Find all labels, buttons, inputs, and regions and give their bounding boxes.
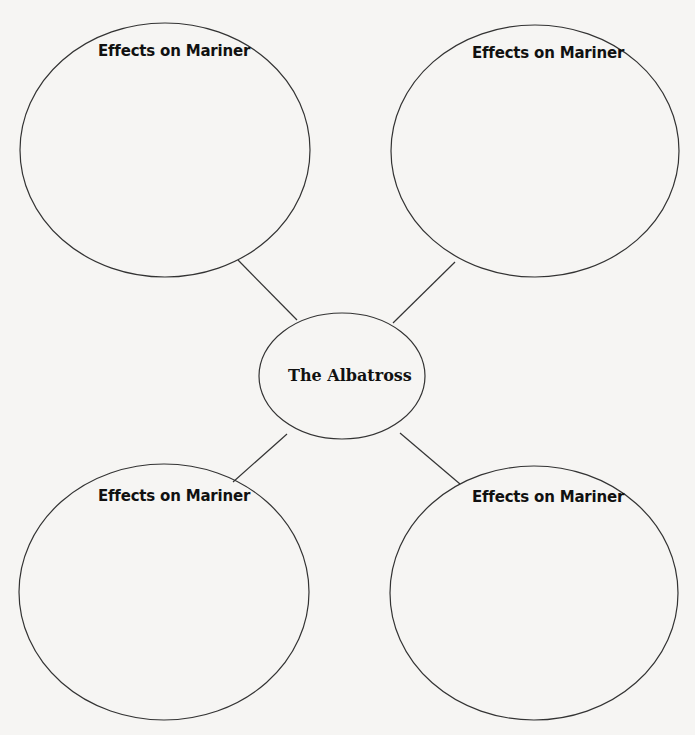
connector-bottom-left (233, 434, 287, 482)
connector-top-left (238, 260, 297, 320)
node-label-bottom-left: Effects on Mariner (98, 487, 250, 505)
node-label-bottom-right: Effects on Mariner (472, 488, 624, 506)
node-label-top-right: Effects on Mariner (472, 44, 624, 62)
node-label-top-left: Effects on Mariner (98, 42, 250, 60)
center-label: The Albatross (288, 366, 412, 385)
node-ellipse-top-right (391, 25, 679, 277)
connector-bottom-right (400, 433, 460, 484)
node-ellipse-top-left (20, 23, 310, 277)
connector-top-right (393, 262, 455, 323)
